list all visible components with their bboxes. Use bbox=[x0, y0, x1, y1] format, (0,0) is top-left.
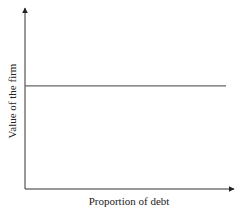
chart: Proportion of debt Value of the firm bbox=[0, 0, 242, 213]
y-axis-label: Value of the firm bbox=[6, 63, 18, 138]
x-axis-label: Proportion of debt bbox=[89, 195, 170, 207]
